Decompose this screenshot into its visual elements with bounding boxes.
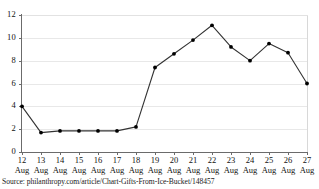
x-axis-tick-labels: 12Aug13Aug14Aug15Aug16Aug17Aug18Aug19Aug…	[22, 156, 307, 176]
y-tick-label: 6	[12, 79, 16, 88]
series-markers	[20, 23, 309, 134]
data-point	[210, 23, 214, 27]
data-point	[58, 129, 62, 133]
data-point	[267, 42, 271, 46]
source-note: Source: philanthropy.com/article/Chart-G…	[2, 177, 215, 186]
data-point	[39, 131, 43, 135]
y-tick-label: 2	[12, 124, 16, 133]
x-tick-label: 27Aug	[295, 156, 319, 175]
y-tick-label: 0	[12, 147, 16, 156]
y-tick-label: 4	[12, 101, 16, 110]
data-point	[77, 129, 81, 133]
data-point	[172, 52, 176, 56]
series-polyline	[22, 25, 307, 132]
data-point	[229, 45, 233, 49]
y-tick-label: 10	[7, 33, 16, 42]
data-point	[134, 125, 138, 129]
data-point	[20, 104, 24, 108]
data-point	[191, 38, 195, 42]
data-point	[248, 59, 252, 63]
data-point	[305, 82, 309, 86]
y-tick-label: 12	[7, 10, 16, 19]
chart-figure: 121086420 12Aug13Aug14Aug15Aug16Aug17Aug…	[0, 0, 319, 189]
data-series-line	[22, 15, 307, 152]
data-point	[286, 51, 290, 55]
x-tick-month: Aug	[295, 166, 319, 176]
data-point	[115, 129, 119, 133]
y-tick-label: 8	[12, 56, 16, 65]
plot-area	[22, 15, 307, 152]
data-point	[96, 129, 100, 133]
data-point	[153, 66, 157, 70]
